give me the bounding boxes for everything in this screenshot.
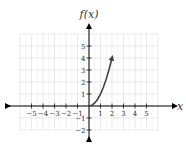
y-tick-label: 4 [81,55,86,63]
x-tick-label: 2 [110,110,114,118]
y-tick-label: −2 [75,127,85,135]
y-tick-label: 2 [81,79,85,87]
x-tick-label: −4 [38,110,49,118]
y-axis-label: f(x) [79,8,99,21]
x-tick-label: −5 [26,110,36,118]
x-axis-label: x [177,100,184,113]
y-tick-label: −1 [75,115,85,123]
tick-labels: −5−4−3−2−112345−2−112345 [26,43,148,135]
x-tick-label: 4 [133,110,138,118]
x-tick-label: −2 [61,110,71,118]
x-tick-label: −3 [49,110,59,118]
x-tick-label: 5 [144,110,148,118]
y-tick-label: 3 [81,67,85,75]
axes [8,26,175,139]
x-tick-label: 1 [98,110,102,118]
y-tick-label: 1 [81,91,85,99]
y-tick-label: 5 [81,43,85,51]
x-tick-label: 3 [121,110,125,118]
function-graph: −5−4−3−2−112345−2−112345 x f(x) [0,0,186,149]
